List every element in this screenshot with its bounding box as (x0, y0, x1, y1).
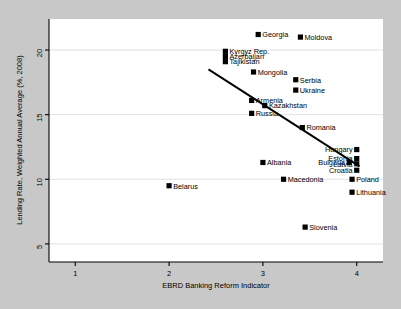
point-marker (293, 77, 298, 82)
point-marker (354, 156, 359, 161)
y-tick-label: 10 (35, 178, 44, 186)
point-label: Bulgaria (318, 158, 346, 167)
point-marker (249, 111, 254, 116)
y-axis-title: Lending Rate, Weighted Annual Average (%… (15, 55, 24, 225)
x-tick-label: 4 (355, 269, 359, 278)
point-marker (349, 177, 354, 182)
y-tick-label: 20 (35, 49, 44, 57)
point-marker (166, 183, 171, 188)
point-marker (223, 49, 228, 54)
point-marker (300, 125, 305, 130)
point-label: Romania (306, 123, 336, 132)
point-marker (281, 177, 286, 182)
x-tick-label: 1 (73, 269, 77, 278)
x-axis-title: EBRD Banking Reform Indicator (162, 281, 270, 290)
point-label: Moldova (305, 33, 334, 42)
point-label: Lithuania (356, 188, 387, 197)
point-marker (256, 32, 261, 37)
point-label: Russia (256, 109, 279, 118)
point-label: Slovenia (309, 223, 338, 232)
point-marker (354, 161, 359, 166)
y-tick-label: 15 (35, 113, 44, 121)
point-marker (293, 87, 298, 92)
point-marker (223, 59, 228, 64)
x-tick-label: 3 (261, 269, 265, 278)
point-label: Mongolia (258, 68, 289, 77)
point-marker (249, 98, 254, 103)
point-marker (298, 34, 303, 39)
point-label: Macedonia (288, 175, 325, 184)
point-label: Croatia (329, 166, 353, 175)
point-label: Ukraine (300, 86, 325, 95)
point-marker (349, 190, 354, 195)
point-marker (223, 54, 228, 59)
point-marker (303, 225, 308, 230)
point-marker (347, 160, 352, 165)
point-label: Tajikistan (229, 57, 259, 66)
point-label: Hungary (325, 145, 353, 154)
point-label: Belarus (173, 182, 198, 191)
point-label: Poland (356, 175, 379, 184)
x-tick-label: 2 (167, 269, 171, 278)
point-marker (251, 69, 256, 74)
point-label: Albania (267, 158, 292, 167)
point-label: Serbia (300, 76, 322, 85)
point-label: Georgia (262, 30, 289, 39)
point-marker (354, 147, 359, 152)
scatter-plot-figure: GeorgiaMoldovaKyrgyz Rep.AzerbaijanTajik… (0, 0, 401, 309)
point-marker (354, 168, 359, 173)
point-marker (262, 103, 267, 108)
y-tick-label: 5 (35, 245, 44, 249)
data-point: Macedonia (281, 175, 324, 184)
chart-canvas: GeorgiaMoldovaKyrgyz Rep.AzerbaijanTajik… (0, 0, 401, 309)
point-marker (260, 160, 265, 165)
